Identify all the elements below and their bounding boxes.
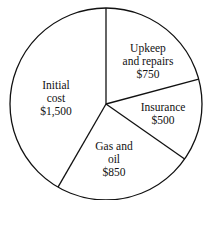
label-value: $850 [95,166,132,179]
slice-label-initial: Initial cost $1,500 [40,79,72,118]
label-value: $750 [123,68,174,81]
label-value: $500 [141,114,186,127]
label-line: Upkeep [123,42,174,55]
label-line: Initial [40,79,72,92]
label-line: Gas and [95,140,132,153]
slice-label-gas: Gas and oil $850 [95,140,132,179]
label-value: $1,500 [40,105,72,118]
label-line: oil [95,153,132,166]
label-line: cost [40,92,72,105]
label-line: Insurance [141,101,186,114]
label-line: and repairs [123,55,174,68]
slice-label-upkeep: Upkeep and repairs $750 [123,42,174,81]
slice-label-insurance: Insurance $500 [141,101,186,127]
